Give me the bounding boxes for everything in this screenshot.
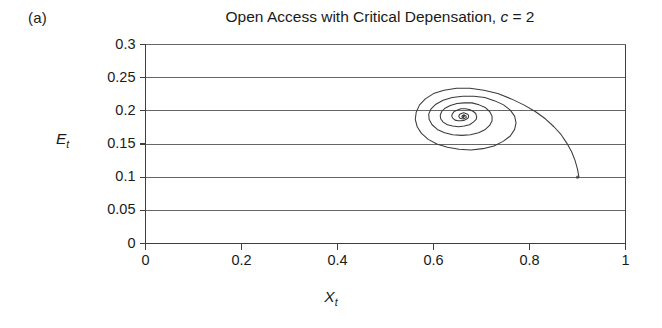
x-tick-label: 0.2 bbox=[220, 252, 264, 268]
y-tick-label: 0.3 bbox=[70, 36, 136, 52]
y-tick-label: 0.15 bbox=[70, 135, 136, 151]
x-tick-label: 0 bbox=[124, 252, 168, 268]
x-tick-label: 0.4 bbox=[316, 252, 360, 268]
x-tick-label: 0.6 bbox=[412, 252, 456, 268]
y-tick-label: 0.2 bbox=[70, 102, 136, 118]
trajectory-start-marker bbox=[576, 176, 579, 179]
y-tick-label: 0.1 bbox=[70, 168, 136, 184]
figure-panel: (a) Open Access with Critical Depensatio… bbox=[0, 0, 662, 328]
y-tick-label: 0.05 bbox=[70, 201, 136, 217]
x-tick-label: 0.8 bbox=[508, 252, 552, 268]
trajectory-curve bbox=[415, 88, 579, 177]
y-tick-label: 0.25 bbox=[70, 69, 136, 85]
y-tick-label: 0 bbox=[70, 235, 136, 251]
x-tick-label: 1 bbox=[604, 252, 648, 268]
